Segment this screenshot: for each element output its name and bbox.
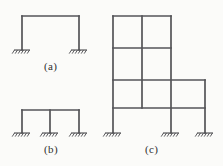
frame-c-beams — [113, 16, 205, 108]
figure-caption-c: (c) — [145, 143, 158, 155]
frame-a — [12, 16, 87, 54]
support-fixed — [12, 133, 30, 137]
support-fixed — [195, 133, 213, 137]
support-fixed — [103, 133, 121, 137]
structural-frames-figure: (a) (b) (c) — [0, 0, 223, 166]
frame-c-supports — [103, 133, 213, 137]
frame-b-supports — [12, 133, 87, 137]
frame-c-columns — [113, 16, 205, 133]
frame-a-supports — [12, 50, 87, 54]
support-fixed — [161, 133, 179, 137]
frame-b — [12, 110, 87, 137]
support-fixed — [69, 50, 87, 54]
support-fixed — [40, 133, 58, 137]
figure-caption-a: (a) — [44, 60, 57, 72]
frame-a-members — [22, 16, 79, 50]
support-fixed — [12, 50, 30, 54]
support-fixed — [69, 133, 87, 137]
frame-c — [103, 16, 213, 137]
figure-caption-b: (b) — [44, 143, 58, 155]
frames-drawing — [0, 0, 223, 166]
frame-b-members — [22, 110, 79, 133]
